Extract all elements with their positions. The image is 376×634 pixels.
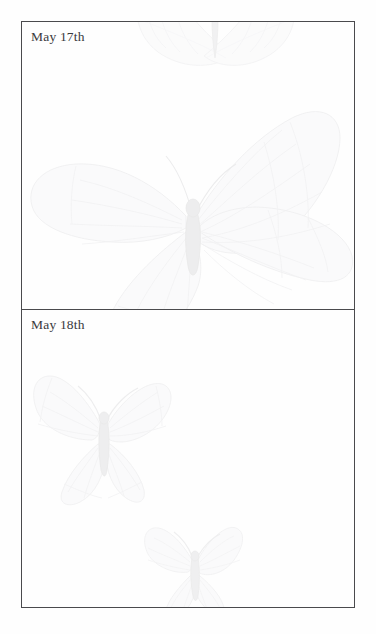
entry-panel-may-18[interactable]: May 18th [22, 310, 354, 607]
entry-date-label-may-18: May 18th [31, 318, 85, 333]
entry-writing-area-may-18[interactable] [22, 310, 354, 607]
entry-panel-may-17[interactable]: May 17th [22, 22, 354, 310]
entry-writing-area-may-17[interactable] [22, 22, 354, 309]
entry-date-label-may-17: May 17th [31, 30, 85, 45]
journal-page-sheet: May 17th [0, 0, 376, 634]
journal-entry-box: May 17th [21, 21, 355, 608]
